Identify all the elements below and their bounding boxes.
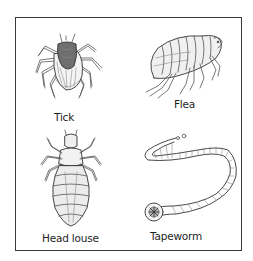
tick-illustration <box>30 28 110 104</box>
head-louse-illustration <box>35 128 107 230</box>
label-flea: Flea <box>174 98 195 110</box>
tapeworm-illustration <box>140 130 240 222</box>
label-tapeworm: Tapeworm <box>150 230 202 242</box>
label-head-louse: Head louse <box>42 232 99 244</box>
flea-illustration <box>140 28 230 100</box>
label-tick: Tick <box>54 111 74 123</box>
